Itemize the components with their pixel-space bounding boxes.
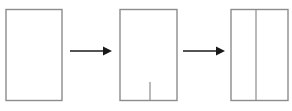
diagram-canvas <box>0 0 292 111</box>
rectangle-step-3 <box>231 10 288 101</box>
rectangle-step-1 <box>6 10 62 101</box>
rectangle-step-2 <box>120 10 177 101</box>
diagram-step-rectangle-split-in-two <box>231 10 288 101</box>
diagram-step-plain-rectangle <box>6 10 62 101</box>
process-diagram <box>0 0 292 111</box>
diagram-step-rectangle-with-bottom-notch <box>120 10 177 101</box>
